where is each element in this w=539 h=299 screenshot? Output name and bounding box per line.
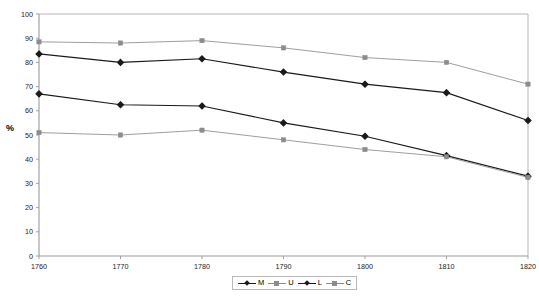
legend-entry-M: M xyxy=(238,279,264,287)
data-point-marker xyxy=(118,59,124,65)
legend-square-marker-icon xyxy=(274,281,279,286)
y-axis-tick-label: 100 xyxy=(21,10,33,19)
y-axis-tick-label: 70 xyxy=(25,82,33,91)
data-point-marker xyxy=(526,82,530,86)
legend-line-swatch xyxy=(298,283,316,284)
data-point-marker xyxy=(444,155,448,159)
data-point-marker xyxy=(200,128,204,132)
legend-line-swatch xyxy=(238,283,256,284)
y-axis-tick-label: 50 xyxy=(25,131,33,140)
data-point-marker xyxy=(199,103,205,109)
legend-entry-L: L xyxy=(298,279,322,287)
data-point-marker xyxy=(200,38,204,42)
chart-plot-area: 0102030405060708090100176017701780179018… xyxy=(0,0,539,299)
data-point-marker xyxy=(37,130,41,134)
y-axis-tick-label: 10 xyxy=(25,227,33,236)
legend-diamond-marker-icon xyxy=(304,280,310,286)
series-C xyxy=(37,128,530,180)
legend-entry-C: C xyxy=(326,279,351,287)
legend-label: C xyxy=(346,279,351,287)
data-point-marker xyxy=(118,133,122,137)
series-line xyxy=(39,130,528,177)
data-point-marker xyxy=(281,46,285,50)
y-axis-tick-label: 30 xyxy=(25,179,33,188)
series-line xyxy=(39,54,528,121)
data-point-marker xyxy=(118,102,124,108)
x-axis-tick-label: 1820 xyxy=(520,262,536,271)
data-point-marker xyxy=(526,175,530,179)
chart-legend: MULC xyxy=(232,276,357,290)
data-point-marker xyxy=(281,69,287,75)
data-point-marker xyxy=(525,117,531,123)
data-point-marker xyxy=(281,120,287,126)
x-axis-tick-label: 1760 xyxy=(31,262,47,271)
data-point-marker xyxy=(362,133,368,139)
x-axis-tick-label: 1800 xyxy=(357,262,373,271)
data-point-marker xyxy=(36,91,42,97)
data-point-marker xyxy=(37,40,41,44)
data-point-marker xyxy=(363,55,367,59)
y-axis-tick-label: 40 xyxy=(25,155,33,164)
legend-label: M xyxy=(258,279,264,287)
legend-line-swatch xyxy=(326,283,344,284)
data-point-marker xyxy=(118,41,122,45)
data-point-marker xyxy=(363,147,367,151)
x-axis-tick-label: 1810 xyxy=(439,262,455,271)
x-axis-tick-label: 1790 xyxy=(276,262,292,271)
legend-line-swatch xyxy=(268,283,286,284)
data-point-marker xyxy=(444,60,448,64)
y-axis-tick-label: 90 xyxy=(25,34,33,43)
legend-entry-U: U xyxy=(268,279,293,287)
y-axis-tick-label: 80 xyxy=(25,58,33,67)
data-point-marker xyxy=(36,51,42,57)
line-chart-figure: % 01020304050607080901001760177017801790… xyxy=(0,0,539,299)
data-point-marker xyxy=(444,90,450,96)
legend-diamond-marker-icon xyxy=(244,280,250,286)
x-axis-tick-label: 1770 xyxy=(113,262,129,271)
data-point-marker xyxy=(199,56,205,62)
data-point-marker xyxy=(362,81,368,87)
legend-label: L xyxy=(318,279,322,287)
data-point-marker xyxy=(281,138,285,142)
y-axis-tick-label: 20 xyxy=(25,203,33,212)
y-axis-tick-label: 60 xyxy=(25,106,33,115)
legend-label: U xyxy=(288,279,293,287)
x-axis-tick-label: 1780 xyxy=(194,262,210,271)
series-U xyxy=(37,38,530,86)
legend-square-marker-icon xyxy=(332,281,337,286)
series-M xyxy=(36,51,531,124)
y-axis-tick-label: 0 xyxy=(29,252,33,261)
